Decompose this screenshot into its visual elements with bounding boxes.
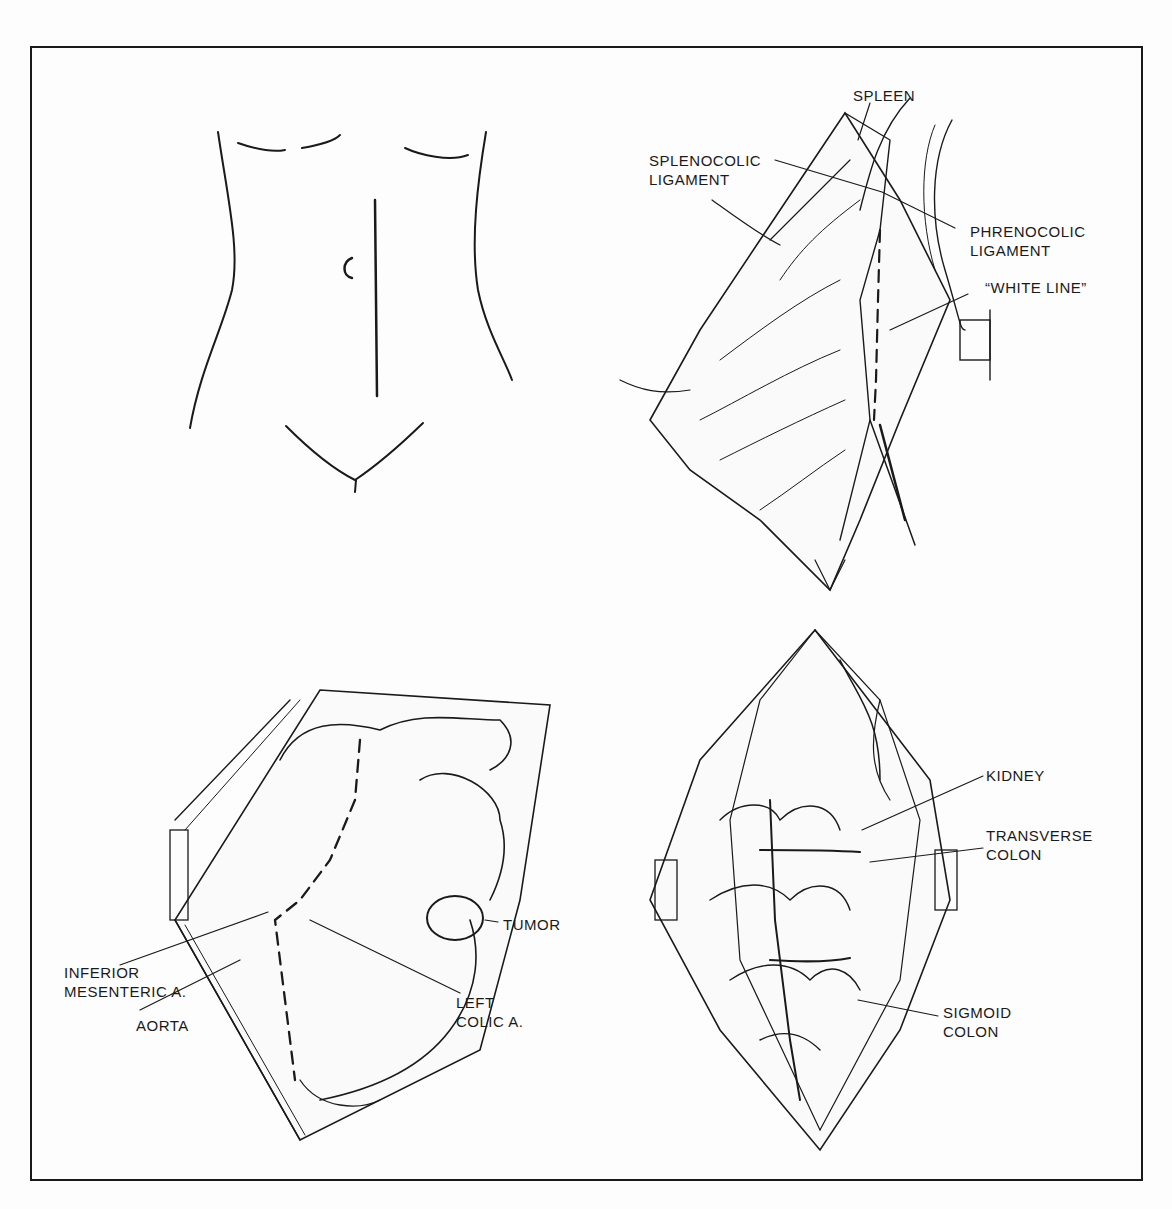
label-line: SIGMOID	[943, 1004, 1012, 1021]
label-line: SPLENOCOLIC	[649, 152, 761, 169]
label-transverse-colon: TRANSVERSECOLON	[986, 826, 1093, 864]
label-kidney: KIDNEY	[986, 766, 1045, 785]
label-inferior-mesenteric-artery: INFERIORMESENTERIC A.	[64, 963, 186, 1001]
label-line: COLON	[986, 846, 1042, 863]
label-line: LEFT	[456, 994, 495, 1011]
label-line: LIGAMENT	[649, 171, 730, 188]
label-aorta: AORTA	[136, 1016, 189, 1035]
label-line: COLIC A.	[456, 1013, 523, 1030]
label-tumor: TUMOR	[503, 915, 561, 934]
anastomosis-panel	[650, 630, 983, 1150]
label-phrenocolic-ligament: PHRENOCOLICLIGAMENT	[970, 222, 1086, 260]
label-line: COLON	[943, 1023, 999, 1040]
label-line: INFERIOR	[64, 964, 140, 981]
label-line: PHRENOCOLIC	[970, 223, 1086, 240]
resection-panel	[120, 690, 550, 1140]
label-splenocolic-ligament: SPLENOCOLICLIGAMENT	[649, 151, 761, 189]
label-line: MESENTERIC A.	[64, 983, 186, 1000]
midline-incision	[375, 200, 377, 396]
label-white-line: “WHITE LINE”	[985, 278, 1087, 297]
label-spleen: SPLEEN	[853, 86, 915, 105]
label-left-colic-artery: LEFTCOLIC A.	[456, 993, 523, 1031]
umbilicus	[345, 258, 353, 278]
label-line: LIGAMENT	[970, 242, 1051, 259]
label-line: TRANSVERSE	[986, 827, 1093, 844]
torso-outline-panel	[190, 132, 512, 492]
label-sigmoid-colon: SIGMOIDCOLON	[943, 1003, 1012, 1041]
